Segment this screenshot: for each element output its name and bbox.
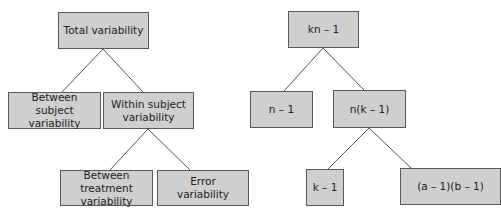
node-label-line1: Between subject [11, 91, 98, 117]
node-n-minus-1: n – 1 [250, 91, 313, 128]
connector-nk1-to-ab [369, 128, 411, 168]
node-within-subject-variability: Within subject variability [103, 92, 194, 129]
node-label: Total variability [64, 24, 144, 37]
node-label: k – 1 [313, 181, 338, 194]
node-label: n(k – 1) [350, 103, 390, 116]
node-label-line2: variability [63, 195, 150, 208]
node-label-line1: Within subject [111, 98, 186, 111]
connector-kn1-to-nk1 [323, 48, 364, 90]
node-n-k-minus-1: n(k – 1) [333, 90, 406, 128]
connector-within-to-between-treatment [110, 129, 148, 170]
connector-nk1-to-k1 [328, 128, 369, 169]
node-label-line2: variability [177, 188, 229, 201]
node-label: kn – 1 [308, 23, 339, 36]
node-k-minus-1: k – 1 [306, 169, 344, 206]
node-kn-minus-1: kn – 1 [288, 11, 359, 48]
node-label-line1: Between treatment [63, 169, 150, 195]
node-label: (a – 1)(b – 1) [417, 180, 484, 193]
node-label-line2: variability [111, 111, 186, 124]
node-between-subject-variability: Between subject variability [8, 92, 101, 129]
node-between-treatment-variability: Between treatment variability [60, 170, 153, 206]
node-error-variability: Error variability [157, 170, 249, 206]
connector-total-to-between-subject [62, 49, 103, 92]
node-total-variability: Total variability [58, 12, 149, 49]
node-label-line1: Error [177, 175, 229, 188]
node-label: n – 1 [269, 103, 294, 116]
connector-kn1-to-n1 [284, 48, 323, 91]
node-label-line2: variability [11, 117, 98, 130]
node-a-minus-1-b-minus-1: (a – 1)(b – 1) [400, 168, 501, 205]
connector-total-to-within-subject [103, 49, 143, 92]
connector-within-to-error [148, 129, 190, 170]
